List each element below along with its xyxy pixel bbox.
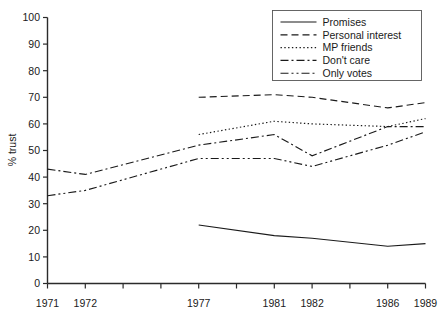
- line-chart: 0102030405060708090100 19711972197719811…: [0, 0, 441, 327]
- x-tick-label: 1972: [74, 297, 98, 309]
- legend-label: Only votes: [323, 67, 373, 79]
- y-tick-label: 40: [28, 171, 40, 183]
- chart-canvas: 0102030405060708090100 19711972197719811…: [0, 0, 441, 327]
- y-tick-label: 80: [28, 65, 40, 77]
- y-tick-label: 20: [28, 224, 40, 236]
- y-tick-label: 70: [28, 91, 40, 103]
- x-tick-label: 1981: [263, 297, 287, 309]
- y-tick-label: 100: [22, 11, 40, 23]
- y-axis-title: % trust: [6, 134, 18, 167]
- x-tick-label: 1971: [36, 297, 60, 309]
- x-tick-label: 1982: [300, 297, 324, 309]
- x-tick-label: 1989: [414, 297, 438, 309]
- legend-label: Don't care: [323, 54, 371, 66]
- y-tick-label: 90: [28, 38, 40, 50]
- legend-label: Promises: [323, 16, 367, 28]
- y-tick-label: 0: [34, 277, 40, 289]
- y-tick-label: 50: [28, 144, 40, 156]
- legend-label: MP friends: [323, 41, 373, 53]
- y-tick-label: 60: [28, 118, 40, 130]
- legend-label: Personal interest: [323, 29, 402, 41]
- chart-legend: PromisesPersonal interestMP friendsDon't…: [273, 11, 422, 81]
- y-tick-label: 10: [28, 251, 40, 263]
- x-tick-label: 1986: [376, 297, 400, 309]
- y-tick-label: 30: [28, 198, 40, 210]
- x-tick-label: 1977: [187, 297, 211, 309]
